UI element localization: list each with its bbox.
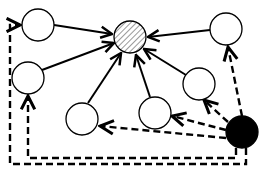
edge-n5-target bbox=[136, 55, 150, 97]
edge-source-n5 bbox=[172, 116, 226, 130]
edge-n1-target bbox=[54, 25, 112, 34]
edge-n2-target bbox=[42, 43, 114, 70]
node-n4 bbox=[183, 68, 215, 100]
node-n1 bbox=[22, 9, 54, 41]
target-node-hatched bbox=[114, 21, 146, 53]
node-n2 bbox=[12, 62, 44, 94]
graph-canvas bbox=[0, 0, 268, 174]
graph-diagram bbox=[0, 0, 268, 174]
edge-n6-target bbox=[88, 53, 121, 103]
node-n6 bbox=[66, 103, 98, 135]
node-n5 bbox=[139, 97, 171, 129]
edge-n3-target bbox=[148, 30, 210, 37]
edge-source-n2 bbox=[28, 96, 236, 158]
nodes bbox=[12, 9, 258, 148]
edge-source-n4 bbox=[204, 100, 228, 122]
edge-n4-target bbox=[144, 49, 186, 75]
edge-source-n6 bbox=[100, 126, 226, 138]
node-n3 bbox=[210, 13, 242, 45]
edge-source-n3 bbox=[228, 47, 242, 116]
source-node-filled bbox=[226, 116, 258, 148]
